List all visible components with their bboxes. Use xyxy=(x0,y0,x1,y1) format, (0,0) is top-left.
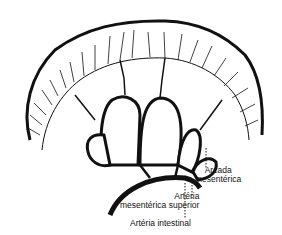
label-arcada-line2: mesentérica xyxy=(195,175,241,184)
label-arcada-mesenterica: Arcada mesentérica xyxy=(195,166,241,184)
label-arteria-mesenterica-superior: Artéria mesentérica superior xyxy=(120,192,199,210)
label-arteria-intestinal: Artéria intestinal xyxy=(130,219,191,228)
label-ams-line2: mesentérica superior xyxy=(120,201,199,210)
